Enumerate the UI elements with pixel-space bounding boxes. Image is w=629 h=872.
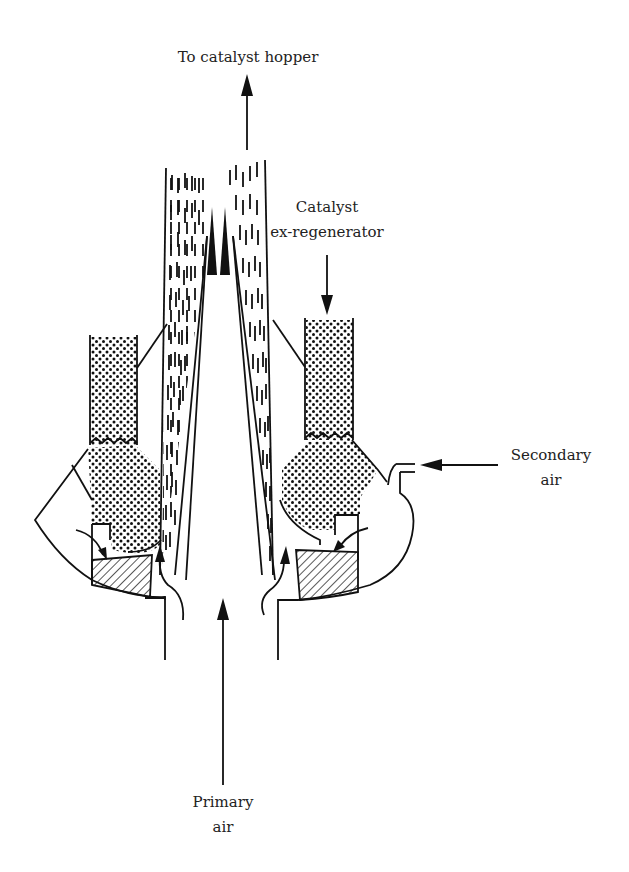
label-secondary-air: air <box>541 471 563 489</box>
label-primary: Primary <box>193 793 254 811</box>
right-hatched-grid <box>296 550 358 600</box>
right-catalyst-bed <box>280 440 387 560</box>
arrow-catalyst-in-icon <box>321 255 333 315</box>
label-to-catalyst-hopper: To catalyst hopper <box>178 48 319 66</box>
right-curved-arrow-icon <box>333 528 368 552</box>
deflector-wedges <box>207 207 230 275</box>
label-ex-regenerator: ex-regenerator <box>270 223 384 241</box>
riser-left-wall <box>160 168 208 580</box>
right-primary-curved-arrow-icon <box>262 546 290 615</box>
label-secondary: Secondary <box>511 446 592 464</box>
left-catalyst-bed <box>72 445 161 553</box>
left-standpipe <box>90 324 167 445</box>
left-primary-curved-arrow-icon <box>155 545 183 620</box>
arrow-to-hopper-icon <box>241 74 253 150</box>
right-standpipe <box>273 318 353 440</box>
regenerator-diagram: To catalyst hopper Catalyst ex-regenerat… <box>0 0 629 872</box>
arrow-secondary-air-icon <box>420 459 498 471</box>
label-catalyst: Catalyst <box>296 198 358 216</box>
arrow-primary-air-icon <box>217 598 229 785</box>
left-hatched-grid <box>92 555 152 597</box>
label-primary-air: air <box>213 818 235 836</box>
